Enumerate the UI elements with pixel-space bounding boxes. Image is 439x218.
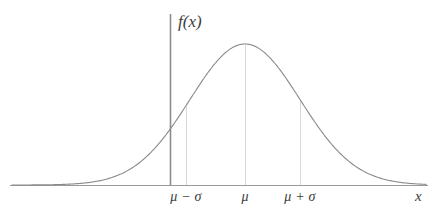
droplines-group (187, 45, 301, 185)
tick-label-mu: μ (241, 189, 248, 205)
gaussian-curve (12, 44, 426, 185)
plot-canvas (0, 0, 439, 218)
tick-label-mu-minus-sigma: μ − σ (170, 189, 201, 205)
tick-label-mu-plus-sigma: μ + σ (284, 189, 315, 205)
normal-distribution-figure: f(x) x μ − σ μ μ + σ (0, 0, 439, 218)
y-axis-label: f(x) (178, 12, 202, 32)
x-axis-label: x (415, 188, 422, 205)
